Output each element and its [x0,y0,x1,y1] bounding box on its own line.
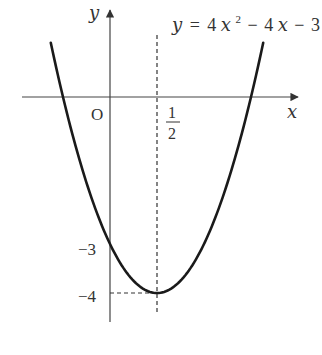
parabola-diagram: y x O 1 2 −3 −4 y = 4 x 2 − 4 x − 3 [0,0,322,355]
y-axis-label: y [88,2,100,23]
y-intercept-label: −3 [78,240,96,259]
origin-label: O [91,105,103,124]
x-axis-label: x [287,101,297,122]
half-denominator: 2 [168,125,176,142]
vertex-y-label: −4 [78,287,97,306]
half-numerator: 1 [168,104,176,121]
equation-label: y = 4 x 2 − 4 x − 3 [171,7,320,35]
